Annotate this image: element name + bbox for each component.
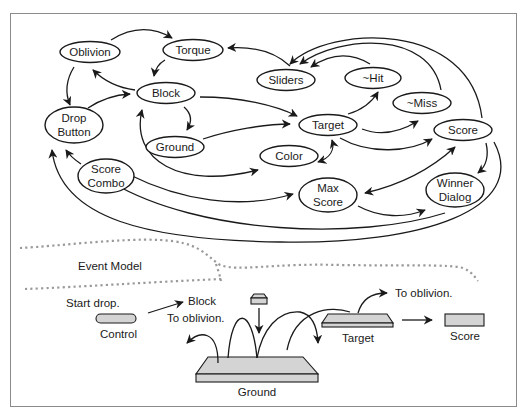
section-label-event-model: Event Model (78, 260, 142, 272)
ground-slab (196, 357, 318, 382)
edges (52, 30, 501, 243)
node-oblivion: Oblivion (60, 42, 120, 63)
event-model: Start drop. Control Block To oblivion. G… (66, 287, 484, 398)
svg-text:Color: Color (275, 150, 303, 162)
svg-text:Sliders: Sliders (268, 74, 303, 86)
node-block: Block (137, 83, 195, 104)
node-ground: Ground (146, 137, 204, 158)
node-max-score: Max Score (299, 178, 357, 212)
svg-text:Combo: Combo (87, 177, 124, 189)
svg-text:Winner: Winner (437, 177, 474, 189)
ground-label: Ground (238, 386, 276, 398)
node-color: Color (260, 146, 318, 167)
svg-text:~Hit: ~Hit (363, 72, 385, 84)
score-label: Score (450, 330, 480, 342)
svg-text:Max: Max (317, 182, 339, 194)
svg-text:Block: Block (152, 87, 180, 99)
node-hit: ~Hit (345, 68, 401, 89)
node-miss: ~Miss (393, 93, 451, 114)
falling-block-icon (251, 294, 267, 304)
block-label: Block (188, 295, 216, 307)
target-slab (322, 314, 393, 327)
svg-text:Target: Target (312, 119, 345, 131)
node-score-combo: Score Combo (78, 159, 134, 193)
svg-text:Torque: Torque (175, 44, 210, 56)
svg-text:Score: Score (313, 196, 343, 208)
to-oblivion-left-label: To oblivion. (167, 312, 225, 324)
node-drop-button: Drop Button (45, 107, 103, 143)
score-shape (445, 314, 484, 326)
state-diagram: Oblivion Torque Sliders ~Hit Block ~Miss… (0, 0, 526, 415)
control-label: Control (100, 328, 137, 340)
start-drop-label: Start drop. (66, 297, 120, 309)
svg-text:Button: Button (57, 126, 90, 138)
node-target: Target (299, 115, 357, 136)
to-oblivion-right-label: To oblivion. (395, 287, 453, 299)
svg-text:Oblivion: Oblivion (69, 46, 111, 58)
svg-text:Drop: Drop (62, 112, 87, 124)
svg-text:Dialog: Dialog (439, 191, 472, 203)
svg-text:~Miss: ~Miss (407, 97, 438, 109)
svg-text:Score: Score (91, 163, 121, 175)
svg-text:Score: Score (448, 124, 478, 136)
node-sliders: Sliders (257, 70, 315, 91)
control-shape (96, 314, 136, 323)
node-torque: Torque (163, 40, 223, 61)
target-label: Target (342, 332, 375, 344)
svg-text:Ground: Ground (156, 141, 194, 153)
node-winner-dialog: Winner Dialog (426, 173, 484, 207)
node-score: Score (434, 120, 492, 141)
